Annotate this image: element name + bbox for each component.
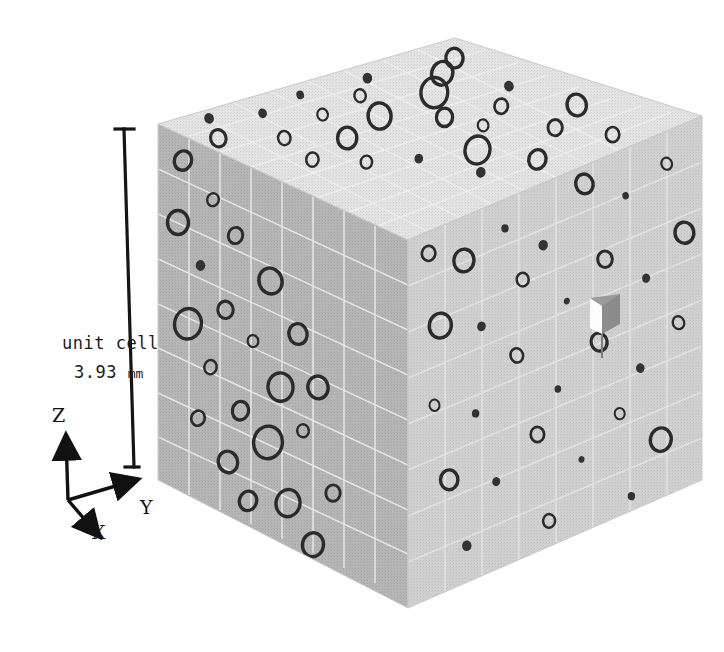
- unit-cell-dimension-number: 3.93: [74, 362, 117, 382]
- axis-label-y: Y: [140, 496, 153, 518]
- unit-cell-figure: unit cell 3.93 mm Z Y X: [0, 0, 724, 652]
- unit-cell-cube: [150, 28, 710, 628]
- unit-cell-dimension-unit: mm: [128, 366, 144, 381]
- coordinate-axis-triad: Z Y X: [24, 404, 164, 559]
- axis-label-z: Z: [52, 404, 65, 426]
- y-axis-arrow: [68, 480, 136, 500]
- z-axis-arrow: [66, 437, 68, 500]
- unit-cell-label: unit cell: [62, 333, 159, 353]
- axis-label-x: X: [92, 521, 106, 543]
- unit-cell-dimension: 3.93 mm: [74, 362, 143, 382]
- cube-svg: [150, 28, 710, 628]
